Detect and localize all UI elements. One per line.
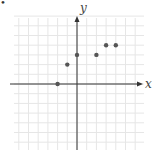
data-point — [75, 53, 79, 57]
data-point — [65, 62, 69, 66]
y-axis-arrow-icon — [75, 16, 80, 22]
data-point — [55, 82, 59, 86]
scatter-plot: xy — [0, 0, 152, 151]
y-axis-label: y — [79, 1, 87, 15]
x-axis-arrow-icon — [137, 82, 143, 87]
data-point — [104, 43, 108, 47]
x-axis-label: x — [145, 77, 152, 91]
data-point — [94, 53, 98, 57]
data-point — [114, 43, 118, 47]
